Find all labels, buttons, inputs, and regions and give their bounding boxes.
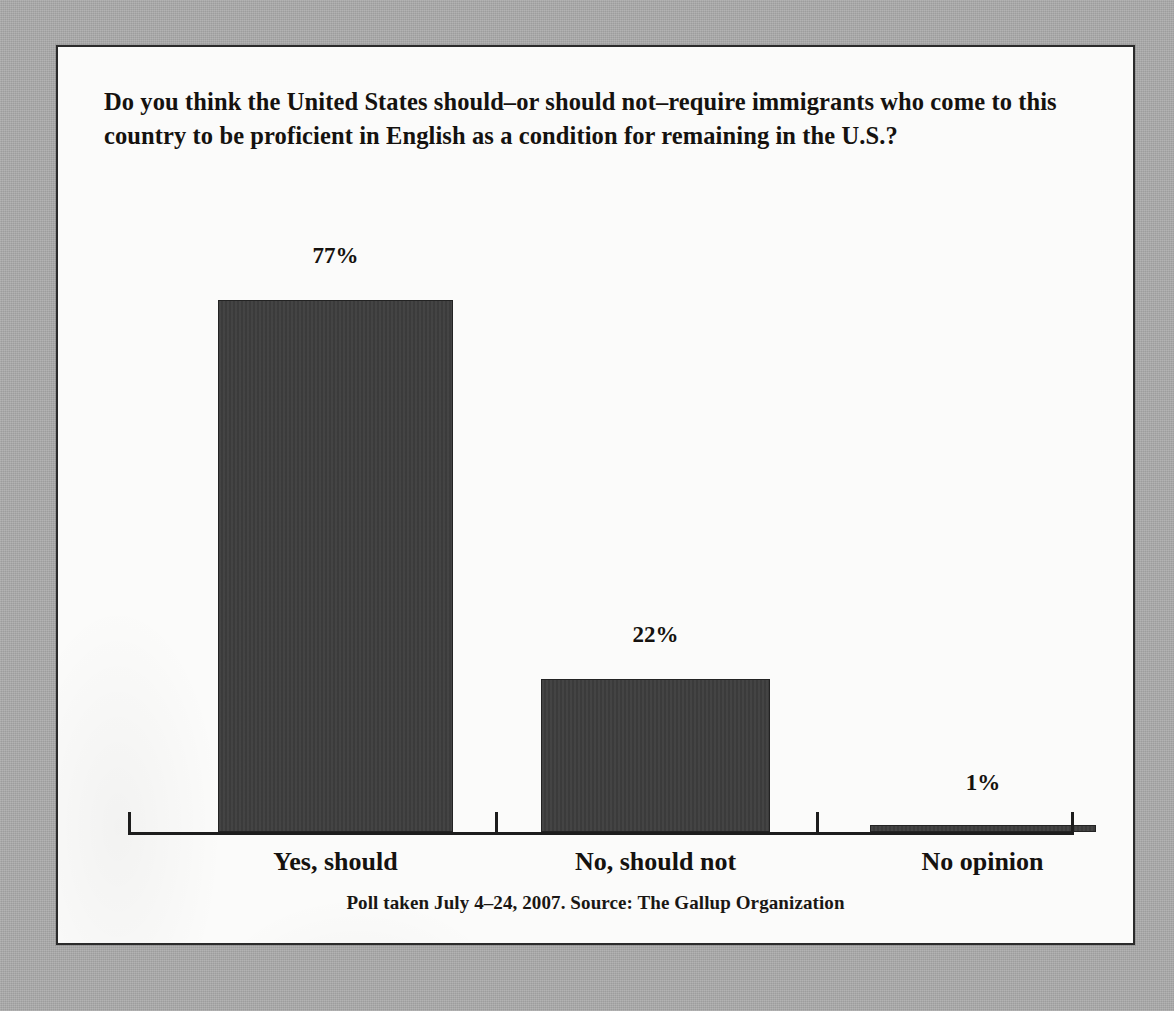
bar-value-no-opinion: 1% <box>870 770 1096 796</box>
category-label-no-opinion: No opinion <box>840 847 1125 877</box>
bar-value-yes-should: 77% <box>218 243 453 269</box>
axis-tick-between-2-3 <box>816 812 819 835</box>
bar-value-no-should-not: 22% <box>541 622 770 648</box>
axis-tick-between-1-2 <box>495 812 498 835</box>
source-footnote: Poll taken July 4–24, 2007. Source: The … <box>58 892 1133 914</box>
chart-panel: Do you think the United States should–or… <box>56 45 1135 945</box>
bar-chart-plot-area: 77% 22% 1% Yes, should No, should not No… <box>58 47 1133 943</box>
bar-no-should-not <box>541 679 770 832</box>
x-axis-baseline <box>128 832 1074 835</box>
bar-yes-should <box>218 300 453 832</box>
axis-tick-left-end <box>128 812 131 835</box>
category-label-no-should-not: No, should not <box>513 847 798 877</box>
category-label-yes-should: Yes, should <box>193 847 478 877</box>
axis-tick-right-end <box>1071 812 1074 835</box>
bar-no-opinion <box>870 825 1096 832</box>
